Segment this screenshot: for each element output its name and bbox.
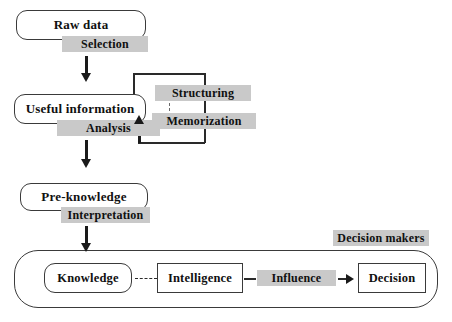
node-useful-information-label: Useful information [26,101,135,117]
band-memorization: Memorization [152,113,256,129]
band-analysis-label: Analysis [86,121,131,136]
loop-left-vertical [133,73,135,95]
label-decision-makers-text: Decision makers [337,231,424,246]
band-influence-label: Influence [272,271,322,286]
node-decision-label: Decision [369,271,416,286]
band-selection: Selection [62,36,148,52]
arrowhead-influence-to-decision [346,274,354,284]
band-memorization-label: Memorization [166,114,241,129]
band-interpretation: Interpretation [61,207,150,223]
connector-intelligence-to-influence [244,278,256,280]
band-influence: Influence [257,270,336,286]
node-raw-data-label: Raw data [54,17,109,33]
loop-bottom-line [138,142,205,144]
loop-divider-tick [169,103,170,111]
band-selection-label: Selection [81,37,129,52]
label-decision-makers: Decision makers [333,230,429,246]
band-structuring: Structuring [155,85,251,101]
arrowhead-interpretation-to-knowledge [81,243,91,252]
loop-right-vertical [204,73,206,143]
band-interpretation-label: Interpretation [68,208,144,223]
node-knowledge: Knowledge [44,263,132,293]
arrowhead-loop-to-analysis [134,115,144,124]
arrowhead-selection-to-useful [81,73,91,82]
connector-influence-to-decision [338,278,346,280]
node-intelligence: Intelligence [157,263,243,293]
node-pre-knowledge-label: Pre-knowledge [41,189,126,205]
node-decision: Decision [358,263,426,293]
node-knowledge-label: Knowledge [57,271,119,286]
diagram-canvas: Raw data Selection Useful information An… [0,0,452,322]
band-analysis: Analysis [57,120,160,136]
node-intelligence-label: Intelligence [168,271,232,286]
connector-knowledge-to-intelligence [135,278,157,279]
arrowhead-analysis-to-preknowledge [81,159,91,168]
loop-top-line [133,73,205,75]
band-structuring-label: Structuring [172,86,234,101]
